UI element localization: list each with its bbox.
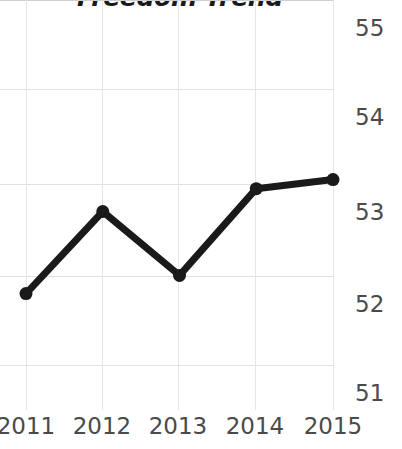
x-tick-label-2012: 2012 [59, 415, 145, 438]
y-tick-label-53: 53 [355, 201, 397, 224]
plot-area [26, 29, 333, 394]
data-point-2014 [250, 182, 263, 195]
x-tick-label-2015: 2015 [290, 415, 376, 438]
data-point-2015 [327, 173, 340, 186]
series-marker-group [20, 173, 340, 300]
x-tick-label-2014: 2014 [212, 415, 298, 438]
x-tick-label-2013: 2013 [135, 415, 221, 438]
data-point-2012 [96, 205, 109, 218]
series-line-group [0, 0, 402, 449]
y-tick-label-55: 55 [355, 17, 397, 40]
y-tick-label-51: 51 [355, 382, 397, 405]
y-tick-label-54: 54 [355, 106, 397, 129]
data-point-2013 [173, 269, 186, 282]
line-chart-figure: Freedom Trend 55 54 53 52 51 2011 2012 2… [0, 0, 402, 449]
y-tick-label-52: 52 [355, 293, 397, 316]
data-point-2011 [20, 287, 33, 300]
